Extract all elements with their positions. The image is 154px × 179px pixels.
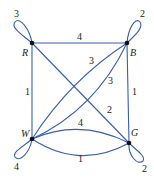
loop-B (127, 21, 141, 43)
weight-loop-B: 2 (140, 8, 145, 19)
node-B (125, 41, 130, 46)
node-label-R: R (21, 47, 28, 58)
loop-G (129, 143, 144, 162)
node-label-W: W (21, 128, 31, 139)
weight-loop-G: 2 (142, 163, 147, 174)
weight-W-G-lower: 1 (78, 153, 83, 164)
node-G (127, 141, 132, 146)
loop-W (15, 139, 32, 159)
weight-W-G-upper: 4 (78, 117, 83, 128)
weight-loop-R: 3 (14, 8, 19, 19)
weight-B-G: 1 (132, 86, 137, 97)
weight-R-B: 4 (77, 31, 82, 42)
node-label-G: G (131, 127, 138, 138)
node-label-B: B (130, 47, 136, 58)
weight-W-B-lower: 3 (108, 75, 113, 86)
weight-R-W: 1 (25, 86, 30, 97)
node-R (30, 41, 35, 46)
weight-W-B-upper: 3 (89, 55, 94, 66)
weight-R-G: 2 (107, 104, 112, 115)
loop-R (14, 21, 32, 43)
edge-B-G (127, 43, 129, 143)
edge-R-G (32, 43, 129, 143)
node-W (30, 137, 35, 142)
weighted-multigraph: R B W G 3 2 4 2 4 1 1 2 3 3 4 1 (0, 0, 154, 179)
weight-loop-W: 4 (14, 161, 19, 172)
